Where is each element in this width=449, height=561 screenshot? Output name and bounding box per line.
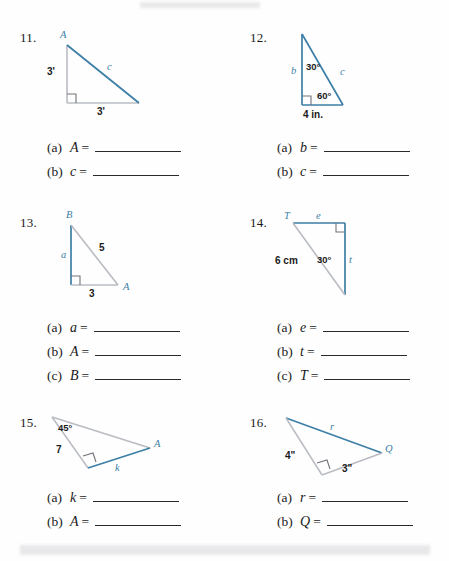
answer-variable: A	[70, 344, 82, 360]
label-hypotenuse: 6 cm	[275, 256, 298, 266]
figure-11: A 3' 3' c	[42, 32, 172, 122]
answer-variable: r	[300, 490, 308, 506]
answer-equals: =	[308, 490, 320, 506]
answer-blank[interactable]	[324, 368, 410, 380]
answer-variable: A	[70, 514, 82, 530]
answer-blank[interactable]	[323, 164, 409, 176]
scan-artifact-top	[140, 2, 260, 8]
answer-blank[interactable]	[327, 514, 413, 526]
answer-blank[interactable]	[322, 490, 408, 502]
right-angle-mark	[317, 460, 330, 469]
answer-variable: e	[300, 320, 309, 336]
answer-equals: =	[309, 320, 321, 336]
answer-blank[interactable]	[95, 514, 181, 526]
answer-tag: (a)	[277, 140, 300, 156]
answer-row: (a) a =	[47, 320, 181, 344]
answer-row: (c) T =	[277, 368, 410, 392]
label-vertex-a: A	[123, 282, 129, 293]
answer-blank[interactable]	[95, 344, 181, 356]
label-hypotenuse-c: c	[340, 67, 345, 78]
label-angle-30: 30°	[306, 62, 320, 72]
answer-blank[interactable]	[95, 140, 181, 152]
problem-number: 15.	[20, 415, 37, 431]
answer-equals: =	[79, 490, 91, 506]
answer-variable: B	[70, 368, 82, 384]
answer-blank[interactable]	[95, 368, 181, 380]
answer-equals: =	[307, 344, 319, 360]
label-leg-horizontal: 3'	[97, 107, 105, 117]
answer-row: (a) A =	[47, 140, 181, 164]
label-base: 4 in.	[303, 110, 323, 120]
label-side-4in: 4"	[285, 451, 295, 461]
answer-equals: =	[310, 140, 322, 156]
answer-tag: (b)	[277, 344, 300, 360]
answer-variable: Q	[300, 514, 313, 530]
answer-variable: A	[70, 140, 82, 156]
answer-equals: =	[309, 164, 321, 180]
hypotenuse	[67, 45, 139, 103]
label-side-e: e	[316, 211, 321, 222]
answer-tag: (a)	[277, 320, 300, 336]
answers-13: (a) a = (b) A = (c) B =	[47, 320, 181, 392]
problem-16: 16. r Q 4" 3" (a) r =	[250, 415, 445, 545]
answer-equals: =	[82, 344, 94, 360]
label-vertex-a: A	[60, 30, 66, 41]
answer-row: (c) B =	[47, 368, 181, 392]
problem-number: 13.	[20, 215, 37, 231]
answer-tag: (a)	[47, 320, 70, 336]
answer-variable: c	[300, 164, 309, 180]
label-leg-a: a	[61, 250, 66, 261]
answers-11: (a) A = (b) c =	[47, 140, 181, 188]
problem-15: 15. 45° 7 k A (a) k =	[20, 415, 225, 545]
label-leg-b: b	[291, 66, 296, 77]
answer-tag: (b)	[47, 344, 70, 360]
figure-12: b 30° c 60° 4 in.	[275, 30, 395, 130]
scan-artifact-bottom	[20, 545, 430, 555]
answers-14: (a) e = (b) t = (c) T =	[277, 320, 410, 392]
label-angle-30: 30°	[317, 255, 331, 265]
answer-tag: (a)	[47, 490, 70, 506]
label-angle-45: 45°	[58, 423, 72, 433]
answer-tag: (a)	[47, 140, 70, 156]
answer-row: (b) Q =	[277, 514, 413, 538]
answer-blank[interactable]	[324, 140, 410, 152]
answer-tag: (c)	[277, 368, 300, 384]
right-angle-mark	[71, 276, 80, 285]
answer-blank[interactable]	[94, 320, 180, 332]
problem-11: 11. A 3' 3' c (a) A =	[20, 30, 225, 195]
answers-16: (a) r = (b) Q =	[277, 490, 413, 538]
answers-12: (a) b = (b) c =	[277, 140, 410, 188]
label-side-t: t	[349, 255, 352, 266]
answer-blank[interactable]	[93, 164, 179, 176]
figure-13: B a 5 3 A	[45, 215, 165, 310]
answer-equals: =	[82, 368, 94, 384]
answer-equals: =	[82, 140, 94, 156]
worksheet-page: 11. A 3' 3' c (a) A =	[0, 0, 449, 561]
answer-blank[interactable]	[93, 490, 179, 502]
answer-variable: T	[300, 368, 311, 384]
answer-variable: a	[70, 320, 80, 336]
answer-blank[interactable]	[323, 320, 409, 332]
answer-row: (b) t =	[277, 344, 410, 368]
label-side-k: k	[115, 463, 120, 474]
right-angle-mark	[67, 94, 76, 103]
label-vertex-t: T	[284, 211, 290, 222]
label-leg-vertical: 3'	[47, 67, 55, 77]
right-angle-mark	[336, 223, 345, 232]
label-angle-60: 60°	[317, 91, 331, 101]
answer-variable: k	[70, 490, 79, 506]
answer-tag: (b)	[277, 514, 300, 530]
answer-blank[interactable]	[321, 344, 407, 356]
side-left-4	[286, 418, 322, 475]
answer-equals: =	[82, 514, 94, 530]
label-hypotenuse-r: r	[330, 422, 334, 433]
answer-row: (a) e =	[277, 320, 410, 344]
answer-equals: =	[79, 164, 91, 180]
answer-row: (b) c =	[277, 164, 410, 188]
answer-row: (b) A =	[47, 514, 181, 538]
answer-equals: =	[80, 320, 92, 336]
answer-variable: t	[300, 344, 307, 360]
answer-equals: =	[313, 514, 325, 530]
label-vertex-q: Q	[385, 444, 393, 455]
answer-row: (b) A =	[47, 344, 181, 368]
